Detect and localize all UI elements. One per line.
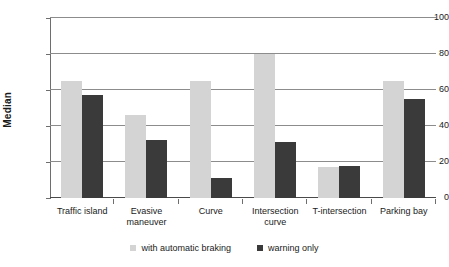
x-axis-label: Intersectioncurve <box>243 206 307 228</box>
y-axis-title: Median <box>2 92 16 128</box>
bars-layer <box>50 18 436 198</box>
x-axis-label-line: Parking bay <box>373 206 435 217</box>
bar[interactable] <box>404 99 425 198</box>
x-axis-labels: Traffic islandEvasivemaneuverCurveInters… <box>50 206 436 228</box>
bar-group <box>307 18 371 198</box>
bar[interactable] <box>383 81 404 198</box>
bar[interactable] <box>82 95 103 198</box>
legend-swatch-icon <box>130 245 136 251</box>
x-axis-label: T-intersection <box>307 206 371 228</box>
x-axis-label: Parking bay <box>372 206 436 228</box>
x-tick-mark <box>50 199 114 204</box>
legend-swatch-icon <box>257 245 263 251</box>
bar[interactable] <box>61 81 82 198</box>
legend-item[interactable]: with automatic braking <box>130 243 231 253</box>
x-tick-mark <box>179 199 243 204</box>
x-axis-ticks <box>50 199 436 204</box>
bar-chart: Median 020406080100 Traffic islandEvasiv… <box>0 0 449 267</box>
bar-group <box>114 18 178 198</box>
x-tick-mark <box>114 199 178 204</box>
bar[interactable] <box>190 81 211 198</box>
bar[interactable] <box>318 167 339 198</box>
bar[interactable] <box>125 115 146 198</box>
chart-legend: with automatic brakingwarning only <box>0 243 449 253</box>
bar-group <box>243 18 307 198</box>
x-tick-mark <box>307 199 371 204</box>
x-axis-label-line: T-intersection <box>308 206 370 217</box>
x-axis-label-line: Curve <box>180 206 242 217</box>
x-axis-label: Traffic island <box>50 206 114 228</box>
legend-item[interactable]: warning only <box>257 243 319 253</box>
bar[interactable] <box>211 178 232 198</box>
x-axis-label-line: Traffic island <box>51 206 113 217</box>
bar-group <box>372 18 436 198</box>
legend-label: with automatic braking <box>141 243 231 253</box>
x-axis-label-line: maneuver <box>115 217 177 228</box>
bar[interactable] <box>254 54 275 198</box>
x-axis-label: Evasivemaneuver <box>114 206 178 228</box>
x-tick-mark <box>372 199 436 204</box>
x-axis-label-line: Intersection <box>244 206 306 217</box>
bar[interactable] <box>146 140 167 198</box>
x-tick-mark <box>243 199 307 204</box>
bar-group <box>179 18 243 198</box>
x-axis-label-line: curve <box>244 217 306 228</box>
bar[interactable] <box>339 166 360 198</box>
plot-area <box>50 18 436 198</box>
bar[interactable] <box>275 142 296 198</box>
x-axis-label-line: Evasive <box>115 206 177 217</box>
legend-label: warning only <box>268 243 319 253</box>
x-axis-label: Curve <box>179 206 243 228</box>
bar-group <box>50 18 114 198</box>
